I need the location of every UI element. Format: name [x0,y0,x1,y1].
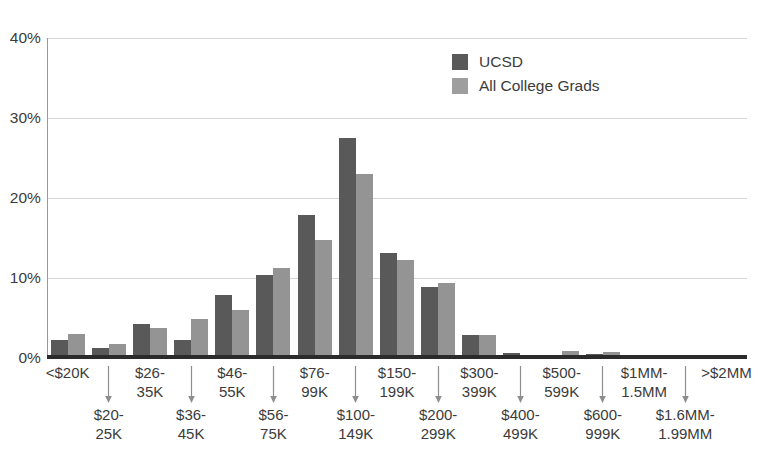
bar-group [706,38,747,358]
x-axis-label-line: $500- [519,364,605,383]
x-axis-label-line: $26- [107,364,193,383]
x-axis-label: $400-499K [478,406,564,443]
bar-groups [47,38,747,358]
y-axis-tick-40%: 40% [10,29,41,47]
legend-swatch-icon-ucsd [452,54,468,70]
income-distribution-bar-chart: 0%10%20%30%40% UCSD All College Grads <$… [0,0,761,453]
x-axis-label-line: $20- [66,406,152,425]
x-axis-label-line: 55K [189,383,275,402]
x-axis-label-line: 75K [230,425,316,444]
bar-ucsd [133,324,150,358]
x-axis-label: $100-149K [313,406,399,443]
x-axis-label-line: 1.5MM [601,383,687,402]
x-axis-label-line: 499K [478,425,564,444]
y-axis-tick-10%: 10% [10,269,41,287]
bar-group [171,38,212,358]
x-axis-tick-labels: <$20K$20-25K$26-35K$36-45K$46-55K$56-75K… [47,362,747,453]
bar-all-college-grads [273,268,290,358]
x-axis-label-line: 299K [395,425,481,444]
x-axis-label: $150-199K [354,364,440,401]
y-axis-tick-30%: 30% [10,109,41,127]
x-axis-label: $600-999K [560,406,646,443]
x-axis-label-line: $200- [395,406,481,425]
x-axis-label-line: 399K [436,383,522,402]
bar-group [294,38,335,358]
bar-all-college-grads [232,310,249,358]
x-axis-line [47,355,747,359]
bar-all-college-grads [315,240,332,358]
legend-label-all-college-grads: All College Grads [479,77,600,95]
y-axis-tick-labels: 0%10%20%30%40% [0,0,41,453]
legend-item-all-college-grads: All College Grads [452,77,600,95]
x-axis-label: $200-299K [395,406,481,443]
x-axis-label: <$20K [25,364,111,383]
bar-ucsd [380,253,397,358]
bar-group [212,38,253,358]
x-axis-label-line: $36- [148,406,234,425]
bar-ucsd [215,295,232,358]
bar-ucsd [339,138,356,358]
legend-swatch-icon-all-college-grads [452,78,468,94]
bar-all-college-grads [397,260,414,358]
x-axis-label-line: $300- [436,364,522,383]
x-axis-label: $46-55K [189,364,275,401]
bar-group [88,38,129,358]
x-axis-label: $20-25K [66,406,152,443]
x-axis-label-line: $76- [272,364,358,383]
x-axis-label: $56-75K [230,406,316,443]
x-axis-label-line: $1MM- [601,364,687,383]
x-axis-label-line: $100- [313,406,399,425]
x-axis-label-line: 149K [313,425,399,444]
x-axis-label-line: 1.99MM [642,425,728,444]
x-axis-label-line: <$20K [25,364,111,383]
x-axis-label: $36-45K [148,406,234,443]
bar-ucsd [421,287,438,358]
bar-group [335,38,376,358]
bar-group [665,38,706,358]
x-axis-label-line: 599K [519,383,605,402]
x-axis-label: $1MM-1.5MM [601,364,687,401]
x-axis-label: $500-599K [519,364,605,401]
x-axis-label: >$2MM [683,364,761,383]
bar-group [376,38,417,358]
bar-ucsd [256,275,273,358]
bar-all-college-grads [191,319,208,358]
bar-group [47,38,88,358]
bar-all-college-grads [356,174,373,358]
chart-legend: UCSD All College Grads [452,53,600,95]
legend-label-ucsd: UCSD [479,53,523,71]
bar-group [253,38,294,358]
x-axis-label-line: 999K [560,425,646,444]
bar-group [129,38,170,358]
x-axis-label-line: 99K [272,383,358,402]
x-axis-label: $76-99K [272,364,358,401]
x-axis-label-line: $600- [560,406,646,425]
x-axis-label-line: $150- [354,364,440,383]
x-axis-label-line: $46- [189,364,275,383]
x-axis-label-line: 35K [107,383,193,402]
x-axis-label-line: $56- [230,406,316,425]
bar-ucsd [298,215,315,358]
bar-all-college-grads [150,328,167,358]
x-axis-label: $26-35K [107,364,193,401]
bar-all-college-grads [438,283,455,358]
legend-item-ucsd: UCSD [452,53,600,71]
bar-group [623,38,664,358]
x-axis-label-line: >$2MM [683,364,761,383]
x-axis-label-line: 199K [354,383,440,402]
x-axis-label-line: $1.6MM- [642,406,728,425]
x-axis-label-line: 25K [66,425,152,444]
x-axis-label-line: $400- [478,406,564,425]
y-axis-tick-20%: 20% [10,189,41,207]
x-axis-label-line: 45K [148,425,234,444]
x-axis-label: $1.6MM-1.99MM [642,406,728,443]
x-axis-label: $300-399K [436,364,522,401]
